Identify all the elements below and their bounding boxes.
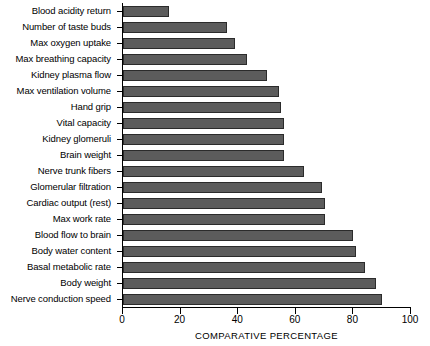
x-axis-tick-label: 100: [402, 314, 419, 326]
bar-row: [123, 243, 411, 259]
category-label: Nerve trunk fibers: [0, 163, 114, 179]
category-label: Max breathing capacity: [0, 51, 114, 67]
category-label: Kidney plasma flow: [0, 67, 114, 83]
category-label: Glomerular filtration: [0, 179, 114, 195]
category-label: Max oxygen uptake: [0, 35, 114, 51]
x-axis-tick-label: 20: [174, 314, 185, 326]
plot-area: [122, 3, 411, 308]
bar: [123, 182, 322, 193]
bar-row: [123, 3, 411, 19]
bar: [123, 214, 325, 225]
category-label: Max work rate: [0, 211, 114, 227]
bar-row: [123, 51, 411, 67]
category-label: Body weight: [0, 275, 114, 291]
bar-row: [123, 163, 411, 179]
bar-row: [123, 99, 411, 115]
bar: [123, 54, 247, 65]
bar: [123, 198, 325, 209]
category-label: Kidney glomeruli: [0, 131, 114, 147]
bar: [123, 134, 284, 145]
bar: [123, 118, 284, 129]
bar: [123, 102, 281, 113]
bar: [123, 22, 227, 33]
category-label: Nerve conduction speed: [0, 291, 114, 307]
bar-row: [123, 227, 411, 243]
x-axis-tick-label: 80: [347, 314, 358, 326]
category-axis-labels: Blood acidity returnNumber of taste buds…: [0, 3, 114, 307]
category-label: Blood acidity return: [0, 3, 114, 19]
comparative-percentage-bar-chart: Blood acidity returnNumber of taste buds…: [0, 0, 430, 346]
category-label: Basal metabolic rate: [0, 259, 114, 275]
bar: [123, 246, 356, 257]
bar: [123, 86, 279, 97]
category-label: Cardiac output (rest): [0, 195, 114, 211]
bar-row: [123, 115, 411, 131]
bar-row: [123, 131, 411, 147]
category-label: Brain weight: [0, 147, 114, 163]
x-axis-tick-label: 40: [232, 314, 243, 326]
x-axis-title: COMPARATIVE PERCENTAGE: [122, 330, 411, 341]
bar: [123, 230, 353, 241]
x-axis-tick-label: 0: [119, 314, 125, 326]
category-label: Body water content: [0, 243, 114, 259]
bar: [123, 38, 235, 49]
bar: [123, 294, 382, 305]
bar: [123, 278, 376, 289]
bar: [123, 70, 267, 81]
bar: [123, 262, 365, 273]
bar-row: [123, 19, 411, 35]
bar-row: [123, 195, 411, 211]
bar-row: [123, 275, 411, 291]
category-label: Number of taste buds: [0, 19, 114, 35]
category-label: Vital capacity: [0, 115, 114, 131]
category-label: Blood flow to brain: [0, 227, 114, 243]
bar: [123, 150, 284, 161]
category-label: Max ventilation volume: [0, 83, 114, 99]
bar: [123, 166, 304, 177]
bar-row: [123, 147, 411, 163]
x-axis-tick-labels: 020406080100: [122, 314, 411, 328]
category-label: Hand grip: [0, 99, 114, 115]
bar-row: [123, 259, 411, 275]
bar-row: [123, 35, 411, 51]
bar: [123, 6, 169, 17]
bar-row: [123, 291, 411, 307]
x-axis-tick-label: 60: [289, 314, 300, 326]
bar-row: [123, 211, 411, 227]
bar-row: [123, 67, 411, 83]
bar-row: [123, 179, 411, 195]
bar-row: [123, 83, 411, 99]
